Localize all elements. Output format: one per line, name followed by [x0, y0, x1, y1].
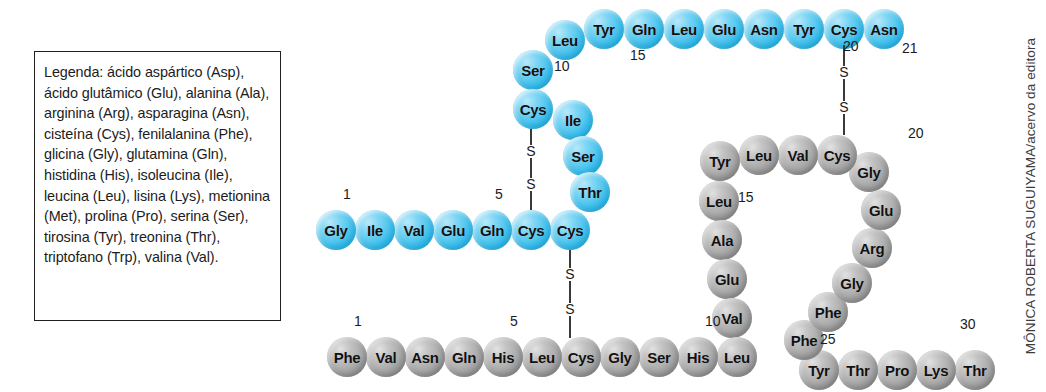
residue-a-5: Gln [472, 210, 512, 250]
residue-b-16: Tyr [700, 141, 740, 181]
position-number-b-5: 5 [510, 313, 518, 329]
residue-b-6: Leu [522, 337, 562, 377]
legend-text: Legenda: ácido aspártico (Asp), ácido gl… [44, 62, 276, 268]
residue-a-8: Thr [570, 172, 610, 212]
insulin-structure-figure: Legenda: ácido aspártico (Asp), ácido gl… [0, 0, 1046, 392]
residue-b-27: Thr [838, 350, 878, 390]
position-number-b-1: 1 [354, 313, 362, 329]
residue-b-10: His [678, 337, 718, 377]
image-credit: MÔNICA ROBERTA SUGUIYAMA/acervo da edito… [1017, 0, 1043, 392]
residue-b-1: Phe [327, 337, 367, 377]
position-number-b-20: 20 [908, 125, 924, 141]
position-number-b-10: 10 [705, 313, 721, 329]
residue-a-11: Cys [513, 89, 553, 129]
residue-a-13: Leu [545, 20, 585, 60]
residue-b-23: Gly [832, 263, 872, 303]
residue-a-16: Leu [664, 9, 704, 49]
residue-b-2: Val [366, 337, 406, 377]
residue-b-4: Gln [444, 337, 484, 377]
residue-b-30: Thr [955, 350, 995, 390]
position-number-b-25: 25 [820, 331, 836, 347]
position-number-a-5: 5 [495, 186, 503, 202]
residue-b-15: Leu [699, 181, 739, 221]
residue-b-3: Asn [405, 337, 445, 377]
disulfide-bridge-a7-b7: SS [562, 246, 578, 342]
position-number-a-1: 1 [343, 186, 351, 202]
residue-a-19: Tyr [784, 9, 824, 49]
residue-a-21: Asn [864, 9, 904, 49]
image-credit-text: MÔNICA ROBERTA SUGUIYAMA/acervo da edito… [1023, 38, 1038, 354]
residue-b-29: Lys [916, 350, 956, 390]
residue-b-13: Glu [707, 259, 747, 299]
position-number-a-21: 21 [902, 40, 918, 56]
position-number-a-20: 20 [843, 38, 859, 54]
disulfide-bridge-a20-b19: SS [836, 45, 852, 139]
position-number-b-30: 30 [960, 316, 976, 332]
residue-a-12: Ser [513, 50, 553, 90]
position-number-a-10: 10 [554, 58, 570, 74]
residue-a-17: Glu [704, 9, 744, 49]
residue-a-15: Gln [624, 9, 664, 49]
residue-b-11: Leu [717, 337, 757, 377]
residue-b-22: Arg [852, 228, 892, 268]
residue-b-17: Leu [739, 135, 779, 175]
residue-a-14: Tyr [584, 9, 624, 49]
residue-a-1: Gly [316, 210, 356, 250]
residue-a-7: Cys [550, 210, 590, 250]
position-number-a-15: 15 [630, 47, 646, 63]
residue-b-14: Ala [702, 220, 742, 260]
position-number-b-15: 15 [738, 189, 754, 205]
disulfide-bridge-a6-a11: SS [523, 126, 539, 214]
residue-a-10: Ile [553, 100, 593, 140]
residue-b-8: Gly [600, 337, 640, 377]
residue-a-6: Cys [511, 210, 551, 250]
residue-b-7: Cys [561, 337, 601, 377]
residue-b-18: Val [778, 135, 818, 175]
residue-a-9: Ser [563, 136, 603, 176]
residue-b-28: Pro [877, 350, 917, 390]
residue-a-2: Ile [355, 210, 395, 250]
residue-b-5: His [483, 337, 523, 377]
residue-b-19: Cys [817, 135, 857, 175]
residue-b-21: Glu [861, 190, 901, 230]
residue-b-9: Ser [639, 337, 679, 377]
residue-a-4: Glu [433, 210, 473, 250]
residue-a-3: Val [394, 210, 434, 250]
residue-a-18: Asn [744, 9, 784, 49]
